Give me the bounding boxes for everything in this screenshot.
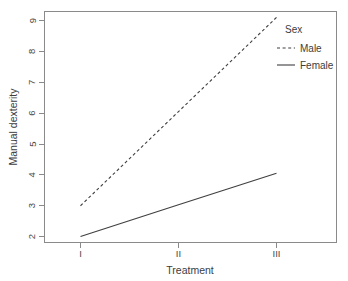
- y-axis: 9 8 7 6 5 4 3 2 Manual dexterity: [7, 12, 45, 243]
- x-tick-label-2: II: [176, 248, 181, 259]
- chart-svg: 9 8 7 6 5 4 3 2 Manual dexterity I II II…: [0, 0, 348, 281]
- y-axis-title: Manual dexterity: [7, 88, 19, 166]
- y-tick-label-8: 8: [27, 49, 38, 54]
- x-tick-label-1: I: [79, 248, 82, 259]
- y-tick-label-3: 3: [27, 203, 38, 208]
- y-tick-label-2: 2: [27, 234, 38, 239]
- legend-title: Sex: [285, 24, 302, 35]
- y-tick-label-6: 6: [27, 110, 38, 115]
- y-tick-label-9: 9: [27, 18, 38, 23]
- legend-label-female: Female: [300, 60, 334, 71]
- plot-frame: [45, 12, 337, 243]
- y-tick-label-5: 5: [27, 141, 38, 146]
- x-tick-label-3: III: [273, 248, 281, 259]
- legend-label-male: Male: [300, 43, 322, 54]
- y-tick-label-7: 7: [27, 80, 38, 85]
- x-axis: I II III Treatment: [45, 243, 337, 277]
- y-tick-label-4: 4: [27, 172, 38, 177]
- interaction-plot-figure: 9 8 7 6 5 4 3 2 Manual dexterity I II II…: [0, 0, 348, 281]
- x-axis-title: Treatment: [166, 264, 214, 276]
